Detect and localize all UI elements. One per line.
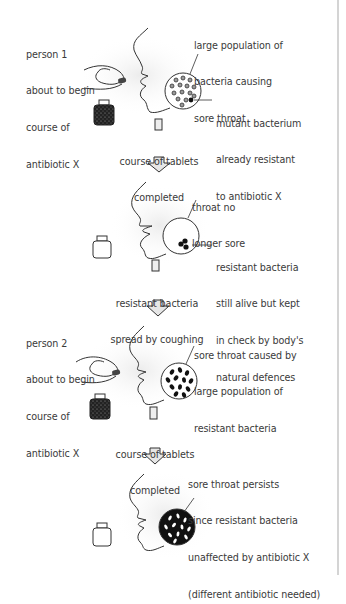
- label-line: since resistant bacteria: [188, 515, 320, 527]
- label-line: antibiotic X: [26, 448, 95, 460]
- label-line: already resistant: [216, 154, 301, 166]
- person-2-label: person 2 about to begin course of antibi…: [26, 313, 95, 473]
- label-line: person 2: [26, 338, 95, 350]
- label-line: course of tablets: [108, 156, 210, 168]
- label-line: antibiotic X: [26, 159, 95, 171]
- transition-2-label: resistant bacteria spread by coughing: [106, 273, 208, 359]
- label-line: still alive but kept: [216, 298, 303, 310]
- label-line: unaffected by antibiotic X: [188, 552, 320, 564]
- label-line: spread by coughing: [106, 334, 208, 346]
- label-line: large population of: [194, 40, 283, 52]
- label-line: sore throat persists: [188, 479, 320, 491]
- label-line: resistant bacteria: [194, 423, 297, 435]
- label-line: resistant bacteria: [106, 298, 208, 310]
- label-line: large population of: [194, 386, 297, 398]
- label-line: course of: [26, 122, 95, 134]
- label-line: about to begin: [26, 374, 95, 386]
- throat-magnified-circle-icon: [161, 363, 197, 399]
- label-line: resistant bacteria: [216, 262, 303, 274]
- tablet-bottle-icon-empty: [93, 523, 111, 546]
- label-line: mutant bacterium: [216, 118, 301, 130]
- throat-4-label: sore throat persists since resistant bac…: [188, 454, 320, 604]
- label-line: (different antibiotic needed): [188, 589, 320, 601]
- tablet-bottle-icon-empty: [93, 236, 111, 258]
- throat-3-label: sore throat caused by large population o…: [194, 325, 297, 448]
- label-line: throat no: [192, 202, 245, 214]
- label-line: about to begin: [26, 85, 95, 97]
- label-line: bacteria causing: [194, 76, 283, 88]
- label-line: sore throat caused by: [194, 350, 297, 362]
- label-line: course of: [26, 411, 95, 423]
- label-line: person 1: [26, 49, 95, 61]
- person-1-label: person 1 about to begin course of antibi…: [26, 24, 95, 184]
